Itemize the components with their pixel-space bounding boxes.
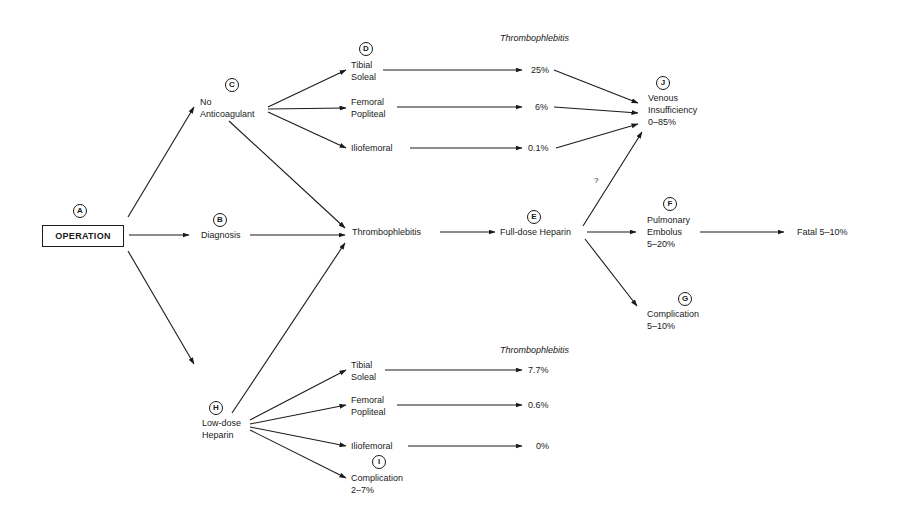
lower-rate-tibial: 7.7%: [528, 364, 549, 376]
thrombophlebitis-node: Thrombophlebitis: [352, 226, 421, 238]
venous-line-1: Venous: [648, 92, 697, 104]
complication-i-node: Complication 2–7%: [351, 472, 403, 496]
diagnosis-label: Diagnosis: [201, 229, 241, 241]
lower-iliofemoral: Iliofemoral: [351, 440, 393, 452]
pulmonary-line-2: Embolus: [647, 226, 690, 238]
upper-iliofemoral: Iliofemoral: [351, 142, 393, 154]
marker-a: A: [73, 204, 87, 218]
full-dose-heparin-node: Full-dose Heparin: [500, 226, 571, 238]
pulmonary-line-3: 5–20%: [647, 238, 690, 250]
complication-i-line-1: Complication: [351, 472, 403, 484]
marker-i: I: [372, 455, 386, 469]
upper-rate-iliofemoral: 0.1%: [528, 142, 549, 154]
low-dose-line-1: Low-dose: [202, 417, 241, 429]
upper-tibial-line-2: Soleal: [351, 71, 376, 83]
complication-g-line-2: 5–10%: [647, 320, 699, 332]
upper-femoral-line-2: Popliteal: [351, 108, 386, 120]
lower-femoral-popliteal: Femoral Popliteal: [351, 394, 386, 418]
marker-j: J: [656, 76, 670, 90]
venous-line-3: 0–85%: [648, 116, 697, 128]
pulmonary-embolus-node: Pulmonary Embolus 5–20%: [647, 214, 690, 250]
no-anticoagulant-line-2: Anticoagulant: [200, 108, 255, 120]
no-anticoagulant-node: No Anticoagulant: [200, 96, 255, 120]
lower-iliofemoral-label: Iliofemoral: [351, 440, 393, 452]
operation-node: OPERATION: [42, 225, 124, 247]
upper-tibial-soleal: Tibial Soleal: [351, 59, 376, 83]
complication-g-node: Complication 5–10%: [647, 308, 699, 332]
upper-tibial-line-1: Tibial: [351, 59, 376, 71]
marker-e: E: [527, 210, 541, 224]
marker-b: B: [213, 213, 227, 227]
low-dose-line-2: Heparin: [202, 429, 241, 441]
upper-femoral-popliteal: Femoral Popliteal: [351, 96, 386, 120]
lower-tibial-line-1: Tibial: [351, 359, 376, 371]
upper-rate-femoral: 6%: [535, 101, 548, 113]
venous-line-2: Insufficiency: [648, 104, 697, 116]
lower-tibial-line-2: Soleal: [351, 371, 376, 383]
upper-femoral-line-1: Femoral: [351, 96, 386, 108]
fatal-node: Fatal 5–10%: [797, 226, 848, 238]
upper-thrombophlebitis-header: Thrombophlebitis: [500, 32, 569, 44]
marker-g: G: [678, 292, 692, 306]
lower-tibial-soleal: Tibial Soleal: [351, 359, 376, 383]
complication-g-line-1: Complication: [647, 308, 699, 320]
diagnosis-node: Diagnosis: [201, 229, 241, 241]
complication-i-line-2: 2–7%: [351, 484, 403, 496]
lower-femoral-line-2: Popliteal: [351, 406, 386, 418]
marker-h: H: [209, 401, 223, 415]
lower-thrombophlebitis-header: Thrombophlebitis: [500, 344, 569, 356]
lower-femoral-line-1: Femoral: [351, 394, 386, 406]
marker-f: F: [663, 197, 677, 211]
no-anticoagulant-line-1: No: [200, 96, 255, 108]
marker-c: C: [225, 78, 239, 92]
low-dose-heparin-node: Low-dose Heparin: [202, 417, 241, 441]
lower-rate-iliofemoral: 0%: [536, 440, 549, 452]
marker-d: D: [359, 42, 373, 56]
question-mark-label: ?: [594, 175, 598, 187]
upper-rate-tibial: 25%: [531, 64, 549, 76]
pulmonary-line-1: Pulmonary: [647, 214, 690, 226]
lower-rate-femoral: 0.6%: [528, 399, 549, 411]
diagram-edges: [0, 0, 901, 524]
upper-iliofemoral-label: Iliofemoral: [351, 142, 393, 154]
venous-insufficiency-node: Venous Insufficiency 0–85%: [648, 92, 697, 128]
